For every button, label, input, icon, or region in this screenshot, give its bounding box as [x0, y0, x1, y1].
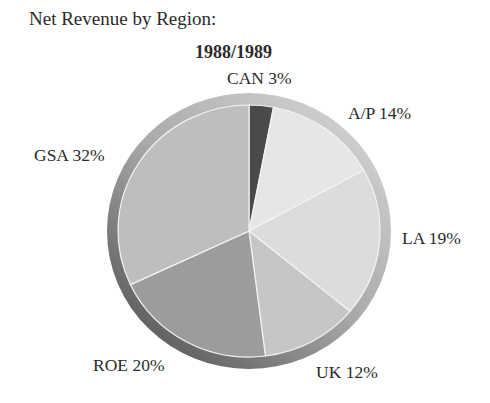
- label-gsa: GSA 32%: [34, 145, 105, 166]
- label-ap: A/P 14%: [348, 103, 411, 124]
- pie-slices: [118, 105, 380, 357]
- pie-chart: [0, 0, 490, 403]
- label-roe: ROE 20%: [93, 355, 164, 376]
- label-uk: UK 12%: [316, 362, 378, 383]
- label-can: CAN 3%: [227, 68, 292, 89]
- label-la: LA 19%: [402, 228, 461, 249]
